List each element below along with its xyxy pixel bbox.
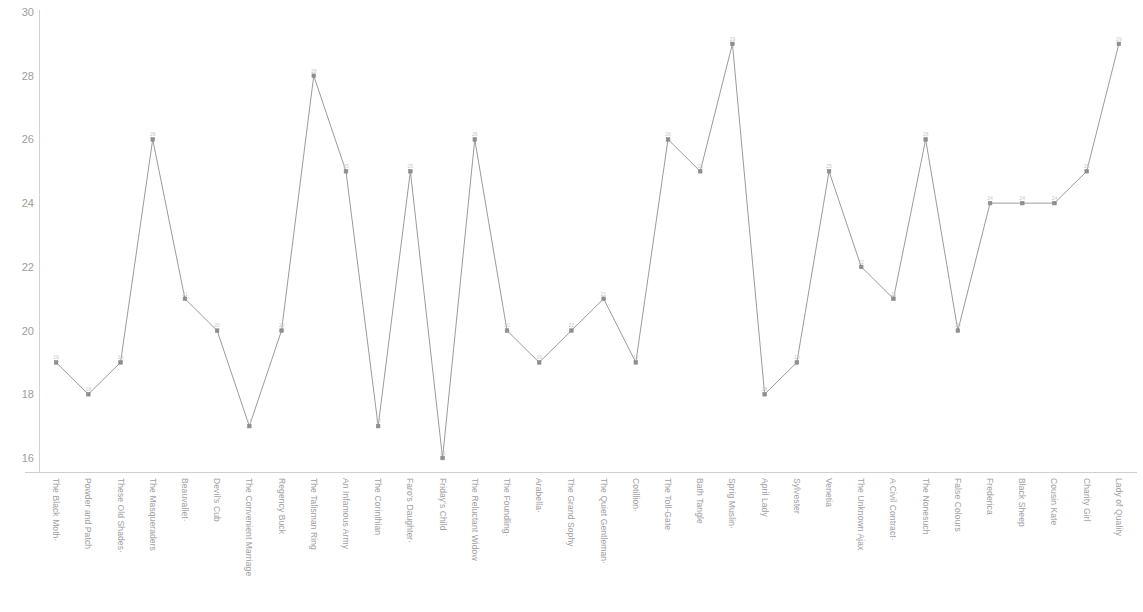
y-axis-tick-label: 24 <box>6 198 34 209</box>
data-point-label: 26 <box>472 131 478 137</box>
x-axis-tick-label: The Grand Sophy <box>566 478 575 547</box>
data-point-marker <box>956 329 960 333</box>
y-axis-tick-label: 20 <box>6 326 34 337</box>
data-point-marker <box>151 138 155 142</box>
data-point-marker <box>215 329 219 333</box>
x-axis-tick-label: The Black Moth· <box>51 478 60 541</box>
data-point-marker <box>344 169 348 173</box>
x-axis-tick-label: Friday's Child <box>438 478 447 531</box>
data-point-label: 26 <box>150 131 156 137</box>
data-point-marker <box>892 297 896 301</box>
x-axis-tick-label: Cousin Kate <box>1049 478 1058 525</box>
x-axis-tick-label: The Nonesuch <box>921 478 930 534</box>
x-axis-tick-label: A Civil Contract· <box>888 478 897 541</box>
data-point-label: 17 <box>375 418 381 424</box>
x-axis-tick-label: April Lady <box>760 478 769 517</box>
data-point-marker <box>731 42 735 46</box>
data-point-label: 21 <box>891 291 897 297</box>
data-point-marker <box>473 138 477 142</box>
data-point-marker <box>827 169 831 173</box>
x-axis-tick-label: Sprig Muslin· <box>727 478 736 529</box>
y-axis-tick-label: 30 <box>6 7 34 18</box>
y-axis-tick-label: 28 <box>6 71 34 82</box>
x-axis-tick-label: Frederica <box>985 478 994 515</box>
data-point-label: 26 <box>923 131 929 137</box>
data-point-marker <box>505 329 509 333</box>
y-axis-tick-labels: 3028262422201816 <box>6 0 34 612</box>
x-axis-tick-label: The Convenient Marriage <box>244 478 253 576</box>
x-axis-tick-label: Devil's Cub <box>212 478 221 522</box>
data-point-label: 26 <box>665 131 671 137</box>
data-point-marker <box>1053 201 1057 205</box>
data-point-label: 25 <box>826 163 832 169</box>
data-point-marker <box>441 456 445 460</box>
y-axis-tick-label: 26 <box>6 134 34 145</box>
data-point-label: 17 <box>247 418 253 424</box>
data-point-marker <box>248 424 252 428</box>
x-axis-tick-label: Bath Tangle <box>695 478 704 524</box>
x-axis-tick-label: The Foundling· <box>502 478 511 537</box>
x-axis-tick-label: Faro's Daughter· <box>405 478 414 543</box>
x-axis-tick-label: Regency Buck <box>277 478 286 534</box>
data-point-marker <box>54 361 58 365</box>
x-axis-tick-label: An Infamous Army <box>341 478 350 549</box>
x-axis-tick-label: The Toll-Gate <box>663 478 672 530</box>
x-axis-tick-label: The Masqueraders <box>148 478 157 551</box>
data-point-label: 24 <box>1019 195 1025 201</box>
data-point-marker <box>119 361 123 365</box>
data-point-marker <box>666 138 670 142</box>
x-axis-tick-label: The Reluctant Widow <box>470 478 479 561</box>
data-point-label: 16 <box>440 450 446 456</box>
data-point-marker <box>183 297 187 301</box>
line-chart: 3028262422201816 19181926212017202825172… <box>0 0 1143 612</box>
data-point-marker <box>312 74 316 78</box>
data-point-marker <box>87 392 91 396</box>
x-axis-tick-label: The Quiet Gentleman· <box>599 478 608 564</box>
series-polyline <box>56 44 1119 458</box>
x-axis-tick-label: Sylvester <box>792 478 801 514</box>
data-point-marker <box>795 361 799 365</box>
data-point-marker <box>924 138 928 142</box>
data-point-marker <box>1117 42 1121 46</box>
data-point-label: 25 <box>408 163 414 169</box>
series-line: 1918192621201720282517251626201920211926… <box>40 12 1135 458</box>
data-point-label: 18 <box>762 386 768 392</box>
data-point-marker <box>859 265 863 269</box>
data-point-marker <box>280 329 284 333</box>
data-point-marker <box>602 297 606 301</box>
data-point-label: 25 <box>697 163 703 169</box>
x-axis-tick-label: False Colours <box>953 478 962 532</box>
data-point-label: 24 <box>1052 195 1058 201</box>
data-point-label: 18 <box>86 386 92 392</box>
x-axis-tick-label: These Old Shades· <box>116 478 125 553</box>
data-point-label: 22 <box>858 259 864 265</box>
x-axis-tick-label: Cotillion· <box>631 478 640 512</box>
x-axis-line <box>25 472 1137 473</box>
data-point-label: 25 <box>1084 163 1090 169</box>
data-point-marker <box>570 329 574 333</box>
data-point-label: 20 <box>955 322 961 328</box>
data-point-label: 21 <box>182 291 188 297</box>
x-axis-tick-label: Lady of Quality <box>1114 478 1123 536</box>
x-axis-tick-label: Black Sheep <box>1017 478 1026 527</box>
data-point-label: 25 <box>343 163 349 169</box>
data-point-label: 28 <box>311 68 317 74</box>
y-axis-tick-label: 22 <box>6 262 34 273</box>
data-point-label: 20 <box>214 322 220 328</box>
data-point-marker <box>537 361 541 365</box>
data-point-marker <box>1085 169 1089 173</box>
data-point-label: 19 <box>53 354 59 360</box>
data-point-label: 21 <box>601 291 607 297</box>
x-axis-tick-label: The Unknown Ajax <box>856 478 865 550</box>
data-point-marker <box>634 361 638 365</box>
data-point-label: 20 <box>504 322 510 328</box>
y-axis-tick-label: 18 <box>6 389 34 400</box>
x-axis-tick-label: Powder and Patch <box>83 478 92 549</box>
data-point-marker <box>988 201 992 205</box>
x-axis-tick-label: Venetia <box>824 478 833 507</box>
data-point-label: 19 <box>118 354 124 360</box>
data-point-label: 20 <box>569 322 575 328</box>
x-axis-tick-labels: The Black Moth·Powder and PatchThese Old… <box>40 474 1135 612</box>
plot-area: 1918192621201720282517251626201920211926… <box>40 12 1135 458</box>
x-axis-tick-label: Charity Girl <box>1082 478 1091 522</box>
